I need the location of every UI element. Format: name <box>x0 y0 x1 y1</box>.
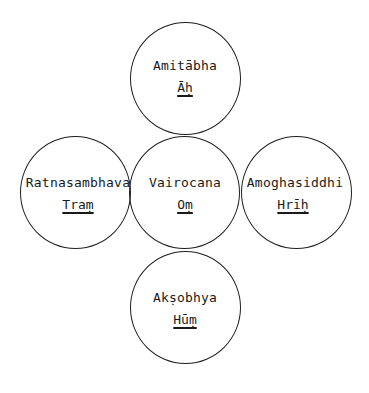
node-right-mantra: Hrīḥ <box>277 198 308 212</box>
circle-left <box>20 136 131 249</box>
circle-bottom <box>130 251 241 364</box>
circle-right <box>241 136 352 249</box>
node-bottom-name: Akṣobhya <box>153 291 217 305</box>
circle-top <box>130 22 241 135</box>
node-right-name: Amoghasiddhi <box>247 176 343 190</box>
node-top-name: Amitābha <box>153 59 217 73</box>
node-center-mantra: Oṃ <box>177 198 193 212</box>
node-left-name: Ratnasambhava <box>26 176 130 190</box>
buddha-mandala-diagram: Amitābha Āḥ Ratnasambhava Traṃ Vairocana… <box>0 0 369 393</box>
circle-center <box>129 136 240 249</box>
node-center-name: Vairocana <box>149 176 221 190</box>
node-bottom-mantra: Hūṃ <box>173 313 196 327</box>
node-left-mantra: Traṃ <box>62 198 93 212</box>
node-top-mantra: Āḥ <box>177 81 193 95</box>
